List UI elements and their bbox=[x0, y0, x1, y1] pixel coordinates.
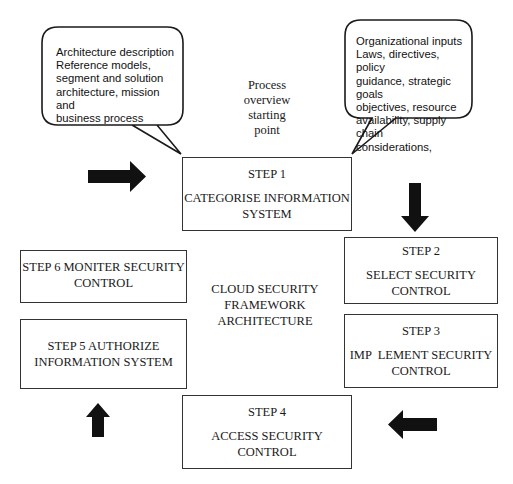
step-3-label: CONTROL bbox=[391, 363, 450, 379]
step-5-label: STEP 5 AUTHORIZE bbox=[47, 338, 159, 354]
start-note-line: overview bbox=[222, 93, 312, 108]
start-note-line: Process bbox=[222, 78, 312, 93]
step-4-box: STEP 4 ACCESS SECURITY CONTROL bbox=[182, 395, 352, 469]
step-4-title: STEP 4 bbox=[248, 404, 286, 420]
step-2-label: CONTROL bbox=[391, 283, 450, 299]
step-6-box: STEP 6 MONITER SECURITY CONTROL bbox=[20, 250, 187, 303]
step-1-label: SYSTEM bbox=[242, 206, 291, 222]
framework-title-line: FRAMEWORK bbox=[205, 297, 325, 313]
callout-left-line: Architecture description bbox=[56, 46, 181, 59]
callout-right-line: Organizational inputs bbox=[356, 35, 471, 48]
step-1-title: STEP 1 bbox=[248, 166, 286, 182]
step-2-title: STEP 2 bbox=[402, 243, 440, 259]
step-2-label: SELECT SECURITY bbox=[366, 267, 476, 283]
arrow-up-icon bbox=[86, 403, 110, 437]
arrow-left-icon bbox=[388, 410, 437, 439]
step-5-box: STEP 5 AUTHORIZE INFORMATION SYSTEM bbox=[20, 319, 187, 389]
callout-left-line: segment and solution bbox=[56, 72, 181, 85]
step-3-label: IMP LEMENT SECURITY bbox=[350, 347, 493, 363]
start-note-line: point bbox=[222, 123, 312, 138]
step-3-title: STEP 3 bbox=[402, 323, 440, 339]
step-3-box: STEP 3 IMP LEMENT SECURITY CONTROL bbox=[344, 314, 498, 388]
step-4-label: CONTROL bbox=[237, 444, 296, 460]
callout-left-line: business process bbox=[56, 112, 181, 125]
start-note: Process overview starting point bbox=[222, 78, 312, 138]
step-1-box: STEP 1 CATEGORISE INFORMATION SYSTEM bbox=[182, 157, 352, 231]
callout-left-line: architecture, mission and bbox=[56, 86, 181, 112]
framework-title-line: CLOUD SECURITY bbox=[205, 281, 325, 297]
arrow-down-icon bbox=[401, 183, 429, 232]
framework-title-line: ARCHITECTURE bbox=[205, 313, 325, 329]
callout-right-line: availability, supply chain bbox=[356, 114, 471, 140]
step-6-label: STEP 6 MONITER SECURITY bbox=[22, 259, 184, 275]
callout-right-text: Organizational inputs Laws, directives, … bbox=[356, 35, 471, 154]
callout-left-text: Architecture description Reference model… bbox=[56, 46, 181, 125]
callout-right-line: guidance, strategic goals bbox=[356, 75, 471, 101]
step-6-label: CONTROL bbox=[74, 275, 133, 291]
callout-left-line: Reference models, bbox=[56, 59, 181, 72]
step-2-box: STEP 2 SELECT SECURITY CONTROL bbox=[344, 237, 498, 304]
callout-right-line: objectives, resource bbox=[356, 101, 471, 114]
step-5-label: INFORMATION SYSTEM bbox=[34, 354, 173, 370]
step-4-label: ACCESS SECURITY bbox=[211, 428, 322, 444]
callout-right-line: considerations, bbox=[356, 141, 471, 154]
framework-title: CLOUD SECURITY FRAMEWORK ARCHITECTURE bbox=[205, 281, 325, 329]
callout-right-line: Laws, directives, policy bbox=[356, 48, 471, 74]
step-1-label: CATEGORISE INFORMATION bbox=[184, 190, 350, 206]
start-note-line: starting bbox=[222, 108, 312, 123]
arrow-right-icon bbox=[88, 161, 146, 192]
